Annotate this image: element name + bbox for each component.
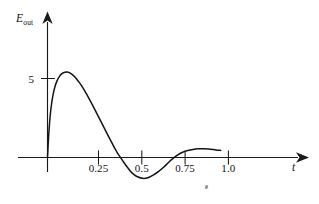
y-axis-label-subscript: out [23, 18, 33, 27]
y-axis-label: Eout [16, 12, 33, 24]
x-tick-label-1.0: 1.0 [221, 163, 235, 174]
y-tick-label-5: 5 [20, 73, 34, 84]
plot-figure: Eout t 5 0.25 0.5 0.75 1.0 [0, 0, 319, 204]
x-axis-label: t [292, 161, 295, 173]
x-tick-label-0.5: 0.5 [135, 163, 149, 174]
plot-canvas [0, 0, 319, 204]
x-tick-label-0.75: 0.75 [175, 163, 195, 174]
x-tick-label-0.25: 0.25 [89, 163, 109, 174]
y-axis-label-main: E [16, 12, 23, 24]
